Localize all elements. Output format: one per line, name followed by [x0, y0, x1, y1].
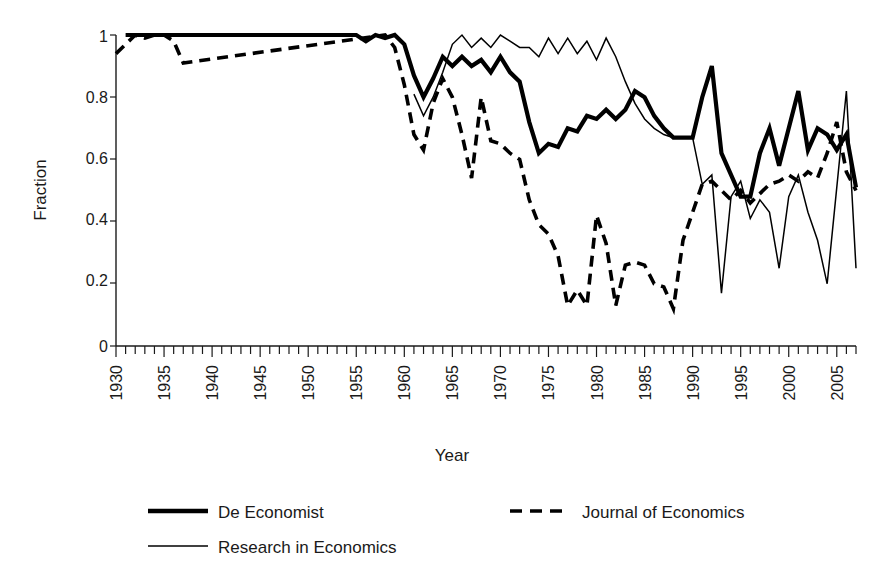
x-tick-label: 1965	[444, 365, 461, 401]
x-tick-label: 1950	[300, 365, 317, 401]
y-tick-label: 0.8	[86, 89, 108, 106]
x-tick-label: 1960	[396, 365, 413, 401]
y-tick-label: 1	[99, 28, 108, 45]
y-tick-label: 0.6	[86, 150, 108, 167]
x-tick-label: 1975	[540, 365, 557, 401]
y-tick-label: 0	[99, 338, 108, 355]
x-tick-label: 1935	[156, 365, 173, 401]
legend-label-research-in-economics: Research in Economics	[218, 538, 397, 557]
x-tick-label: 1990	[685, 365, 702, 401]
x-tick-label: 1955	[348, 365, 365, 401]
y-tick-label: 0.4	[86, 211, 108, 228]
y-axis-title: Fraction	[31, 159, 50, 220]
y-tick-label: 0.2	[86, 272, 108, 289]
x-tick-label: 1945	[252, 365, 269, 401]
x-tick-label: 1980	[589, 365, 606, 401]
x-axis-title: Year	[435, 446, 470, 465]
x-tick-label: 1985	[637, 365, 654, 401]
x-tick-label: 1970	[492, 365, 509, 401]
figure-background	[0, 0, 881, 574]
x-tick-label: 2005	[829, 365, 846, 401]
x-tick-label: 2000	[781, 365, 798, 401]
legend-label-journal-of-economics: Journal of Economics	[582, 503, 745, 522]
x-tick-label: 1940	[204, 365, 221, 401]
chart-figure: Fraction 1 0.8 0.6 0.4 0.2 0 19301935194…	[0, 0, 881, 574]
x-tick-label: 1995	[733, 365, 750, 401]
legend-label-de-economist: De Economist	[218, 503, 324, 522]
x-tick-label: 1930	[108, 365, 125, 401]
